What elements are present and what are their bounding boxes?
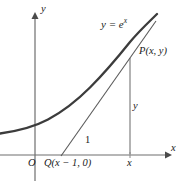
curve-equation-label: y = ex (101, 19, 127, 30)
exponential-tangent-figure: y x y = ex P(x, y) y 1 O Q(x − 1, 0) x (0, 0, 183, 181)
curve-equation-exponent: x (124, 16, 127, 25)
x-axis-label: x (171, 143, 176, 154)
point-p-label: P(x, y) (139, 46, 167, 57)
tangent-line (61, 21, 156, 156)
origin-label: O (28, 158, 36, 169)
x-tick-label: x (127, 158, 132, 169)
figure-canvas (0, 0, 183, 181)
exponential-curve (0, 14, 157, 134)
horizontal-segment-label: 1 (85, 135, 90, 146)
y-axis-label: y (41, 4, 46, 15)
y-axis-arrow-icon (32, 12, 39, 19)
vertical-segment-label: y (133, 101, 138, 112)
point-q-label: Q(x − 1, 0) (44, 158, 91, 169)
curve-equation-base: y = e (101, 18, 124, 30)
